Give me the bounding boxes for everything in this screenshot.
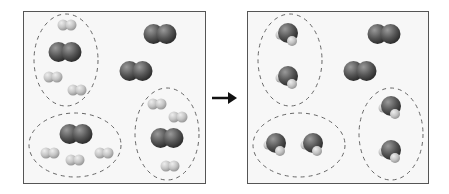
oxygen-molecule <box>60 124 93 144</box>
reaction-diagram <box>0 0 449 194</box>
oxygen-molecule <box>151 128 184 148</box>
oxygen-molecule <box>49 42 82 62</box>
reactants-box <box>24 12 206 184</box>
free-oxygen-molecule <box>144 24 177 44</box>
free-oxygen-molecule <box>344 61 377 81</box>
free-oxygen-molecule <box>120 61 153 81</box>
free-oxygen-molecule <box>368 24 401 44</box>
products-box <box>248 12 429 184</box>
right-arrow-icon <box>212 92 237 104</box>
